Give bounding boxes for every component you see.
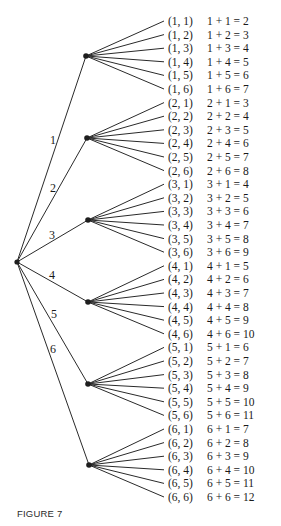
outcome-pair: (4, 2): [168, 273, 193, 286]
outcome-sum: 4 + 4 = 8: [207, 301, 249, 313]
outcome-pair: (1, 6): [168, 83, 193, 96]
outcome-sum: 5 + 3 = 8: [207, 369, 249, 381]
second-die-branch: [87, 103, 164, 138]
second-die-branch: [88, 361, 164, 384]
second-die-branch: [87, 130, 164, 138]
branch-label: 2: [50, 181, 56, 195]
outcome-pair: (3, 1): [168, 178, 193, 191]
branch-label: 3: [49, 228, 55, 242]
tree-diagram: 1(1, 1)1 + 1 = 2(1, 2)1 + 2 = 3(1, 3)1 +…: [0, 0, 281, 526]
outcome-pair: (1, 3): [168, 42, 193, 55]
outcome-pair: (6, 5): [168, 477, 193, 490]
first-die-node: [83, 53, 89, 59]
outcome-sum: 1 + 1 = 2: [207, 15, 249, 27]
outcome-pair: (2, 3): [168, 124, 193, 137]
outcome-sum: 2 + 5 = 7: [207, 151, 249, 163]
outcome-sum: 1 + 3 = 4: [207, 42, 249, 54]
outcome-sum: 5 + 6 = 11: [207, 409, 254, 421]
root-node: [14, 259, 19, 264]
second-die-branch: [86, 21, 164, 56]
second-die-branch: [88, 211, 164, 220]
outcome-sum: 1 + 6 = 7: [207, 83, 249, 95]
outcome-pair: (2, 2): [168, 110, 193, 123]
outcome-sum: 2 + 6 = 8: [207, 165, 249, 177]
outcome-sum: 2 + 3 = 5: [207, 124, 249, 136]
branch-label: 4: [49, 268, 55, 282]
tree-edges: [17, 21, 164, 497]
outcome-sum: 3 + 5 = 8: [207, 233, 249, 245]
outcome-pair: (4, 5): [168, 314, 193, 327]
branch-label: 5: [51, 307, 57, 321]
outcome-pair: (5, 1): [168, 341, 193, 354]
outcome-sum: 2 + 4 = 6: [207, 137, 249, 149]
second-die-branch: [88, 375, 164, 384]
outcome-sum: 4 + 3 = 7: [207, 287, 249, 299]
outcome-sum: 6 + 3 = 9: [207, 450, 249, 462]
second-die-branch: [88, 198, 164, 220]
outcome-pair: (1, 5): [168, 69, 193, 82]
outcome-pair: (2, 4): [168, 137, 193, 150]
first-die-node: [86, 462, 92, 468]
second-die-branch: [88, 266, 164, 302]
outcome-pair: (6, 1): [168, 423, 193, 436]
outcome-sum: 3 + 1 = 4: [207, 178, 249, 190]
first-die-node: [85, 299, 91, 305]
outcome-pair: (5, 3): [168, 369, 193, 382]
second-die-branch: [89, 456, 164, 465]
second-die-branch: [88, 184, 164, 220]
outcome-sum: 3 + 4 = 7: [207, 219, 249, 231]
outcome-sum: 5 + 4 = 9: [207, 382, 249, 394]
outcome-pair: (2, 5): [168, 151, 193, 164]
outcome-pair: (5, 2): [168, 355, 193, 368]
second-die-branch: [89, 429, 164, 465]
outcome-sum: 6 + 2 = 8: [207, 437, 249, 449]
tree-labels: 1(1, 1)1 + 1 = 2(1, 2)1 + 2 = 3(1, 3)1 +…: [49, 15, 255, 504]
second-die-branch: [88, 279, 164, 302]
tree-nodes: [14, 53, 91, 468]
outcome-sum: 4 + 5 = 9: [207, 314, 249, 326]
outcome-sum: 1 + 4 = 5: [207, 56, 249, 68]
outcome-sum: 3 + 6 = 9: [207, 246, 249, 258]
second-die-branch: [89, 443, 164, 465]
branch-label: 6: [50, 342, 56, 356]
first-die-node: [85, 381, 91, 387]
outcome-sum: 6 + 6 = 12: [207, 491, 255, 503]
outcome-sum: 6 + 1 = 7: [207, 423, 249, 435]
outcome-pair: (4, 4): [168, 301, 193, 314]
outcome-pair: (2, 1): [168, 97, 193, 110]
second-die-branch: [87, 116, 164, 138]
branch-label: 1: [50, 133, 56, 147]
outcome-pair: (2, 6): [168, 165, 193, 178]
outcome-pair: (4, 3): [168, 287, 193, 300]
outcome-pair: (4, 6): [168, 328, 193, 341]
outcome-sum: 5 + 2 = 7: [207, 355, 249, 367]
second-die-branch: [88, 347, 164, 384]
outcome-pair: (6, 2): [168, 437, 193, 450]
outcome-pair: (1, 1): [168, 15, 193, 28]
outcome-sum: 6 + 4 = 10: [207, 464, 255, 476]
outcome-pair: (5, 4): [168, 382, 193, 395]
outcome-sum: 1 + 5 = 6: [207, 69, 249, 81]
first-die-node: [85, 217, 91, 223]
first-die-branch: [17, 262, 89, 465]
outcome-sum: 2 + 1 = 3: [207, 97, 249, 109]
outcome-sum: 3 + 3 = 6: [207, 205, 249, 217]
second-die-branch: [86, 48, 164, 56]
outcome-pair: (3, 3): [168, 205, 193, 218]
outcome-sum: 4 + 2 = 6: [207, 273, 249, 285]
outcome-pair: (1, 2): [168, 29, 193, 42]
outcome-pair: (5, 6): [168, 409, 193, 422]
outcome-pair: (4, 1): [168, 260, 193, 273]
outcome-pair: (3, 2): [168, 192, 193, 205]
outcome-sum: 3 + 2 = 5: [207, 192, 249, 204]
outcome-sum: 1 + 2 = 3: [207, 29, 249, 41]
outcome-sum: 2 + 2 = 4: [207, 110, 249, 122]
first-die-node: [84, 135, 90, 141]
outcome-sum: 4 + 6 = 10: [207, 328, 255, 340]
outcome-pair: (6, 3): [168, 450, 193, 463]
outcome-pair: (1, 4): [168, 56, 193, 69]
outcome-sum: 5 + 5 = 10: [207, 396, 255, 408]
outcome-pair: (6, 4): [168, 464, 193, 477]
second-die-branch: [88, 293, 164, 302]
outcome-sum: 5 + 1 = 6: [207, 341, 249, 353]
